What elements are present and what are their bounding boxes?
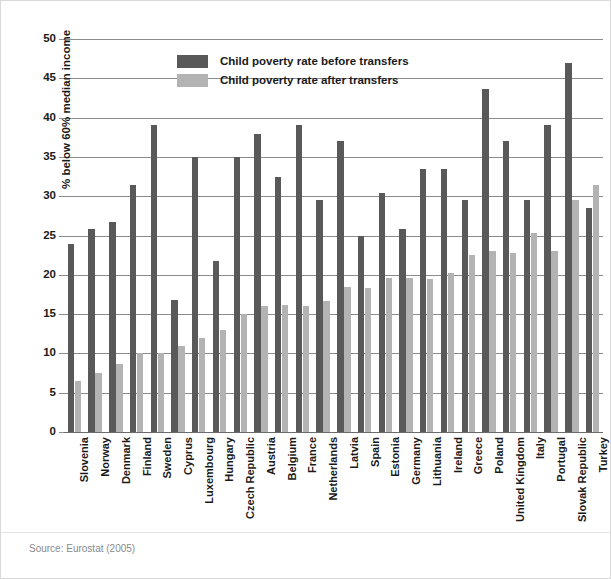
bar-before-transfers (482, 89, 488, 432)
bar-after-transfers (116, 364, 122, 432)
x-axis-tick-label: Turkey (597, 437, 609, 472)
bar-after-transfers (323, 301, 329, 432)
bar-after-transfers (75, 381, 81, 432)
bar-group (586, 39, 599, 432)
bar-before-transfers (420, 169, 426, 432)
bar-group (213, 39, 226, 432)
bar-group (275, 39, 288, 432)
bar-group (88, 39, 101, 432)
bar-group (192, 39, 205, 432)
legend-item-after: Child poverty rate after transfers (177, 72, 409, 88)
y-axis-tick-mark (59, 314, 64, 315)
y-axis-tick-label: 20 (20, 269, 56, 281)
bar-after-transfers (220, 330, 226, 432)
bar-after-transfers (344, 287, 350, 432)
x-axis-tick-label: Austria (265, 437, 277, 475)
bar-group (151, 39, 164, 432)
bar-before-transfers (586, 208, 592, 432)
x-axis-tick-label: Finland (141, 437, 153, 476)
bar-before-transfers (192, 157, 198, 432)
bar-before-transfers (358, 236, 364, 433)
x-axis-tick-label: Belgium (286, 437, 298, 480)
y-axis-tick-mark (59, 353, 64, 354)
bar-before-transfers (399, 229, 405, 432)
legend-swatch-after-icon (177, 74, 208, 87)
bar-after-transfers (261, 306, 267, 432)
bar-group (565, 39, 578, 432)
bar-before-transfers (130, 185, 136, 432)
x-axis-tick-label: Czech Republic (244, 437, 256, 519)
bar-group (441, 39, 454, 432)
x-axis-tick-label: Portugal (555, 437, 567, 482)
bar-group (254, 39, 267, 432)
x-axis-tick-label: Slovenia (78, 437, 90, 482)
y-axis-tick-label: 10 (20, 347, 56, 359)
bar-after-transfers (199, 338, 205, 432)
plot-area: 05101520253035404550 % below 60% median … (64, 39, 603, 432)
y-axis-tick-label: 30 (20, 190, 56, 202)
y-axis-tick-label: 15 (20, 308, 56, 320)
footer-divider (1, 532, 610, 533)
bar-after-transfers (510, 253, 516, 432)
x-axis-labels: SloveniaNorwayDenmarkFinlandSwedenCyprus… (64, 437, 603, 547)
bar-group (296, 39, 309, 432)
y-axis-tick-label: 25 (20, 230, 56, 242)
bar-after-transfers (158, 353, 164, 432)
bar-group (544, 39, 557, 432)
y-axis-tick-mark (59, 275, 64, 276)
x-axis-tick-label: France (306, 437, 318, 473)
bar-group (171, 39, 184, 432)
bar-before-transfers (254, 134, 260, 432)
bar-before-transfers (316, 200, 322, 432)
y-axis-tick-label: 40 (20, 112, 56, 124)
bar-before-transfers (171, 300, 177, 432)
x-axis-tick-label: Sweden (161, 437, 173, 479)
chart-legend: Child poverty rate before transfers Chil… (177, 53, 409, 91)
bar-before-transfers (213, 261, 219, 432)
x-axis-tick-label: Poland (493, 437, 505, 474)
x-axis-tick-label: Italy (534, 437, 546, 459)
bar-group (462, 39, 475, 432)
y-axis-tick-mark (59, 393, 64, 394)
x-axis-tick-label: Luxembourg (203, 437, 215, 504)
x-axis-tick-label: Estonia (389, 437, 401, 477)
bar-group (337, 39, 350, 432)
bar-group (503, 39, 516, 432)
bar-group (109, 39, 122, 432)
bar-before-transfers (544, 125, 550, 432)
y-axis-tick-label: 45 (20, 72, 56, 84)
bar-before-transfers (462, 200, 468, 432)
bar-before-transfers (234, 157, 240, 432)
bar-after-transfers (95, 373, 101, 432)
bar-group (420, 39, 433, 432)
x-axis-tick-label: Lithuania (431, 437, 443, 486)
bar-after-transfers (551, 251, 557, 432)
bar-group (130, 39, 143, 432)
bar-before-transfers (151, 125, 157, 432)
bar-before-transfers (296, 125, 302, 432)
bar-after-transfers (386, 278, 392, 432)
bar-after-transfers (241, 314, 247, 432)
y-axis-tick-mark (59, 196, 64, 197)
x-axis-tick-label: Denmark (120, 437, 132, 484)
bar-group (482, 39, 495, 432)
y-axis-tick-mark (59, 432, 64, 433)
y-axis-tick-label: 50 (20, 33, 56, 45)
bar-after-transfers (406, 278, 412, 432)
bar-after-transfers (178, 346, 184, 432)
bar-group (234, 39, 247, 432)
bar-after-transfers (365, 288, 371, 432)
x-axis-tick-label: Norway (99, 437, 111, 477)
y-axis-tick-label: 0 (20, 426, 56, 438)
bar-after-transfers (448, 273, 454, 432)
gridline (64, 432, 603, 433)
bar-before-transfers (503, 141, 509, 432)
bar-before-transfers (565, 63, 571, 432)
y-axis-tick-label: 35 (20, 151, 56, 163)
y-axis-label: % below 60% median income (60, 30, 72, 189)
bar-group (358, 39, 371, 432)
legend-swatch-before-icon (177, 55, 208, 68)
bar-group (379, 39, 392, 432)
bar-before-transfers (524, 200, 530, 432)
y-axis-tick-label: 5 (20, 387, 56, 399)
